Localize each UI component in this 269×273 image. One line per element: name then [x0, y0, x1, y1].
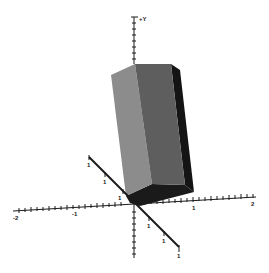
3d-diagram: +Y -2 -1 1 2	[0, 0, 269, 273]
z-label-d: 1	[147, 223, 151, 229]
x-label-neg1: -1	[72, 211, 78, 217]
prism	[111, 64, 194, 206]
z-label-c: 1	[118, 195, 122, 201]
z-label-b: 1	[103, 179, 107, 185]
y-axis-label: +Y	[139, 16, 147, 22]
z-label-f: 1	[177, 253, 181, 259]
x-label-neg2: -2	[13, 215, 19, 221]
z-label-e: 1	[162, 238, 166, 244]
z-label-a: 1	[87, 162, 91, 168]
x-label-2: 2	[251, 201, 255, 207]
x-label-1: 1	[192, 205, 196, 211]
